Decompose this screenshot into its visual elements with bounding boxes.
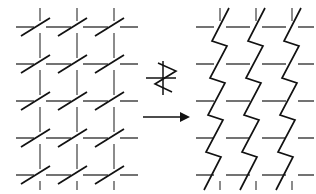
operator-arrow-head <box>180 112 190 122</box>
left-diagonal-bonds <box>21 18 124 184</box>
lattice-transformation-diagram <box>0 0 316 194</box>
zigzag-chain <box>240 8 265 190</box>
right-panel-lattice <box>196 8 314 190</box>
zigzag-chain <box>204 8 229 190</box>
right-vertical-grid-stubs <box>220 8 292 190</box>
figure-root: Lattice bond-to-chain transformation Squ… <box>0 0 316 194</box>
zigzag-chain <box>276 8 301 190</box>
transformation-operator <box>143 61 190 122</box>
right-horizontal-grid-lines <box>196 27 314 175</box>
left-panel-lattice <box>16 8 138 190</box>
right-zigzag-chains <box>204 8 301 190</box>
